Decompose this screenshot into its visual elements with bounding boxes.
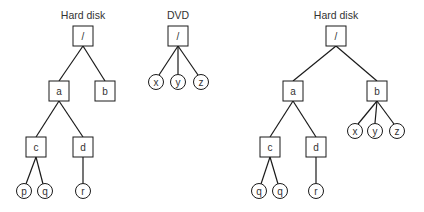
file-node-left-hard-disk-p: p xyxy=(17,184,32,199)
node-label: c xyxy=(268,142,273,153)
tree-edge xyxy=(36,157,43,184)
node-label: d xyxy=(313,142,319,153)
tree-edge xyxy=(83,46,105,81)
tree-edge xyxy=(159,46,178,75)
directory-node-right-hard-disk-mounted-d: d xyxy=(306,137,326,157)
file-node-dvd-z: z xyxy=(194,75,209,90)
file-node-left-hard-disk-r: r xyxy=(76,184,91,199)
node-label: z xyxy=(395,126,400,137)
tree-edges xyxy=(26,46,394,184)
tree-titles: Hard disk DVD Hard disk xyxy=(61,9,359,21)
file-node-right-hard-disk-mounted-z: z xyxy=(390,124,405,139)
node-label: y xyxy=(373,126,378,137)
node-label: a xyxy=(290,86,296,97)
node-label: / xyxy=(177,31,180,42)
node-label: q xyxy=(42,186,48,197)
directory-node-left-hard-disk-root: / xyxy=(73,26,93,46)
file-node-right-hard-disk-mounted-x: x xyxy=(348,124,363,139)
node-label: x xyxy=(154,77,159,88)
directory-node-right-hard-disk-mounted-b: b xyxy=(367,81,387,101)
node-label: b xyxy=(102,86,108,97)
node-label: p xyxy=(21,186,27,197)
tree-edge xyxy=(293,101,316,137)
file-node-right-hard-disk-mounted-y: y xyxy=(368,124,383,139)
directory-node-left-hard-disk-b: b xyxy=(95,81,115,101)
file-node-left-hard-disk-q: q xyxy=(38,184,53,199)
node-label: / xyxy=(82,31,85,42)
node-label: d xyxy=(80,142,86,153)
file-node-dvd-y: y xyxy=(171,75,186,90)
tree-edge xyxy=(358,101,377,124)
directory-node-dvd-root: / xyxy=(168,26,188,46)
node-label: q xyxy=(256,186,262,197)
tree-edge xyxy=(270,157,278,184)
directory-node-right-hard-disk-mounted-a: a xyxy=(283,81,303,101)
file-node-dvd-x: x xyxy=(149,75,164,90)
file-node-right-hard-disk-mounted-q2: q xyxy=(273,184,288,199)
file-system-mount-diagram: /abcdpqr/xyz/abxyzcdqqr Hard disk DVD Ha… xyxy=(0,0,424,212)
tree-edge xyxy=(293,46,336,81)
tree-edge xyxy=(59,46,83,81)
title-dvd: DVD xyxy=(167,9,190,21)
title-left-hard-disk: Hard disk xyxy=(61,9,106,21)
directory-node-left-hard-disk-a: a xyxy=(49,81,69,101)
tree-edge xyxy=(36,101,59,137)
node-label: b xyxy=(374,86,380,97)
file-node-right-hard-disk-mounted-q1: q xyxy=(252,184,267,199)
tree-edge xyxy=(377,101,394,124)
node-label: / xyxy=(335,31,338,42)
tree-edge xyxy=(336,46,377,81)
node-label: z xyxy=(199,77,204,88)
tree-edge xyxy=(375,101,377,123)
tree-edge xyxy=(270,101,293,137)
tree-nodes: /abcdpqr/xyz/abxyzcdqqr xyxy=(17,26,405,199)
node-label: y xyxy=(176,77,181,88)
directory-node-left-hard-disk-c: c xyxy=(26,137,46,157)
directory-node-right-hard-disk-mounted-root: / xyxy=(326,26,346,46)
node-label: q xyxy=(277,186,283,197)
tree-edge xyxy=(261,157,270,184)
tree-edge xyxy=(178,46,198,75)
file-node-right-hard-disk-mounted-r: r xyxy=(309,184,324,199)
node-label: a xyxy=(56,86,62,97)
tree-edge xyxy=(59,101,83,137)
node-label: c xyxy=(34,142,39,153)
tree-edge xyxy=(26,157,36,184)
node-label: x xyxy=(353,126,358,137)
directory-node-right-hard-disk-mounted-c: c xyxy=(260,137,280,157)
directory-node-left-hard-disk-d: d xyxy=(73,137,93,157)
title-right-hard-disk: Hard disk xyxy=(314,9,359,21)
